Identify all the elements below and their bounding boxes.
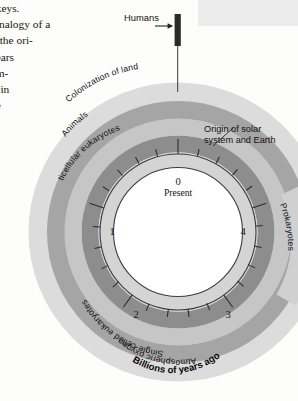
origin-callout-line-1: Origin of solar [204, 124, 261, 134]
origin-callout-line-2: system and Earth [204, 135, 276, 145]
dial-number-2: 2 [133, 309, 138, 320]
dial-number-1: 1 [109, 226, 114, 237]
origin-callout: Origin of solar system and Earth [204, 124, 276, 147]
humans-arrow-head [168, 23, 174, 28]
corner-wash-block [198, 0, 298, 26]
geologic-clock-diagram: 0 Present 1 2 3 4 Billions of years ago … [0, 0, 298, 401]
humans-marker-bar [175, 14, 181, 46]
humans-label: Humans [124, 12, 159, 23]
figure-canvas: nkeys. e analogy of a m the ori- years u… [0, 0, 298, 401]
dial-number-3: 3 [225, 309, 230, 320]
dial-present-label: Present [164, 187, 193, 198]
dial-number-4: 4 [240, 226, 246, 237]
dial-number-0: 0 [175, 176, 180, 187]
